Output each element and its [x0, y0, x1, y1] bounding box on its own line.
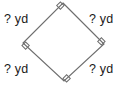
side-label-lower-left: ? yd — [4, 62, 28, 76]
geometry-figure-container: ? yd ? yd ? yd ? yd — [0, 0, 122, 91]
side-label-upper-right: ? yd — [89, 12, 113, 26]
side-label-lower-right: ? yd — [89, 62, 113, 76]
side-label-upper-left: ? yd — [4, 12, 28, 26]
